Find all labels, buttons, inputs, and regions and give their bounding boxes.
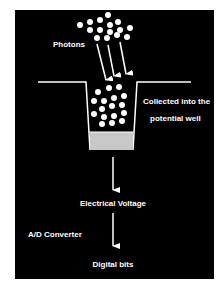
collected-photons (91, 84, 127, 127)
photon-dot (94, 35, 100, 41)
photon-dot (87, 19, 93, 25)
photon-dot (77, 22, 83, 28)
photon-dot (121, 93, 127, 99)
photon-dot (115, 19, 121, 25)
photon-dot (104, 35, 110, 41)
photon-dot (119, 118, 125, 124)
photon-dot (105, 12, 111, 18)
well-charge-fill (90, 132, 133, 150)
photon-dot (111, 95, 117, 101)
photon-dot (87, 27, 93, 33)
arrow-icon (108, 45, 114, 76)
voltage-label: Electrical Voltage (80, 199, 147, 208)
photon-dot (101, 98, 107, 104)
arrow-icon (97, 44, 106, 80)
photon-dot (107, 29, 113, 35)
photon-dot (97, 17, 103, 23)
photon-dot (117, 27, 123, 33)
photon-dot (127, 25, 133, 31)
photon-dot (121, 110, 127, 116)
digital-bits-label: Digital bits (93, 260, 134, 269)
photon-dot (107, 22, 113, 28)
photon-dot (101, 114, 107, 120)
photon-dot (99, 121, 105, 127)
photon-dot (99, 106, 105, 112)
photon-dot (116, 84, 122, 90)
ccd-diagram: Photons Collected into the potential wel… (0, 0, 222, 291)
arrow-icon (120, 42, 126, 74)
photon-dot (119, 102, 125, 108)
photon-dot (97, 27, 103, 33)
photon-dot (114, 32, 120, 38)
photon-dot (109, 103, 115, 109)
photons-label: Photons (53, 40, 86, 49)
photon-arrows (97, 42, 126, 80)
photon-dot (106, 85, 112, 91)
converter-label: A/D Converter (28, 230, 82, 239)
photon-dot (109, 120, 115, 126)
photon-dot (91, 111, 97, 117)
collected-label-line1: Collected into the (143, 97, 211, 106)
photon-dot (95, 89, 101, 95)
collected-label-line2: potential well (150, 114, 201, 123)
photon-dot (124, 34, 130, 40)
photon-dot (111, 113, 117, 119)
photon-dot (91, 98, 97, 104)
incoming-photons (77, 12, 133, 41)
